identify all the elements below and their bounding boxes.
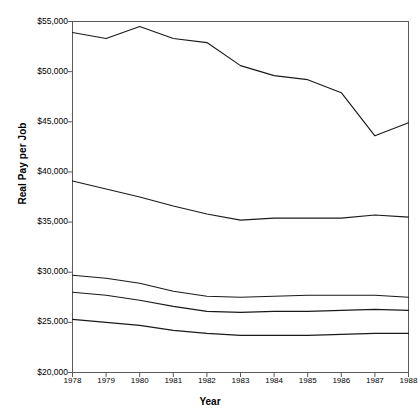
chart-container: Real Pay per Job Year $55,000$50,000$45,… [0,0,420,417]
plot-area [0,0,420,417]
